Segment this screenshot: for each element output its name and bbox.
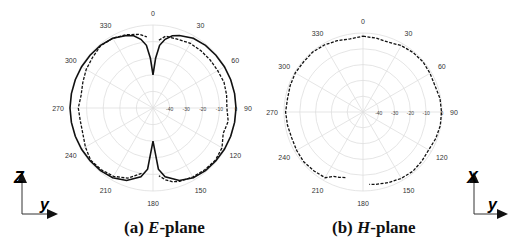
angle-tick-label: 180 [147,200,159,207]
radial-tick-label: -40 [375,110,382,116]
grid-spoke [324,44,364,112]
angle-tick-label: 90 [450,109,458,116]
angle-tick-label: 30 [405,30,413,37]
angle-tick-label: 270 [52,105,64,112]
angle-tick-label: 270 [266,109,278,116]
angle-tick-label: 90 [244,105,252,112]
caption-italic: E [148,218,159,237]
grid-spoke [363,44,403,112]
radial-tick-label: -20 [407,110,414,116]
polar-chart-0: 0306090120150180210240270300330-40-30-20… [52,10,252,207]
grid-spoke [81,108,153,150]
caption-italic: H [357,218,370,237]
angle-tick-label: 210 [312,187,324,194]
grid-spoke [363,112,403,180]
grid-spoke [81,67,153,109]
angle-tick-label: 210 [100,187,112,194]
grid-spoke [295,73,363,113]
angle-tick-label: 60 [438,63,446,70]
axis-label-z: Z [13,169,25,186]
axis-label-y: y [487,196,498,213]
angle-tick-label: 300 [65,57,77,64]
angle-tick-label: 60 [231,57,239,64]
caption-h-plane: (b) H-plane [332,218,416,238]
grid-spoke [295,112,363,152]
polar-plots: 0306090120150180210240270300330-40-30-20… [0,0,509,246]
angle-tick-label: 150 [403,187,415,194]
angle-tick-label: 150 [195,187,207,194]
angle-tick-label: 330 [100,22,112,29]
grid-spoke [153,108,225,150]
radial-tick-label: -20 [199,106,206,112]
radial-tick-label: -40 [166,106,173,112]
angle-tick-label: 120 [229,152,241,159]
angle-tick-label: 120 [436,154,448,161]
caption-suffix: -plane [159,218,204,237]
axes-icon-zy: Z y [8,164,68,224]
radial-tick-label: -30 [391,110,398,116]
angle-tick-label: 0 [361,18,365,25]
radial-tick-label: -10 [423,110,430,116]
axis-label-y: y [39,196,50,213]
grid-spoke [324,112,364,180]
caption-prefix: (a) [124,218,148,237]
angle-tick-label: 240 [65,152,77,159]
caption-prefix: (b) [332,218,357,237]
caption-e-plane: (a) E-plane [124,218,205,238]
axis-label-x: X [466,169,479,186]
grid-spoke [363,73,431,113]
radial-tick-label: -30 [183,106,190,112]
angle-tick-label: 300 [278,63,290,70]
angle-tick-label: 0 [151,10,155,17]
radial-tick-label: -10 [216,106,223,112]
angle-tick-label: 330 [312,30,324,37]
grid-spoke [153,67,225,109]
caption-suffix: -plane [370,218,415,237]
angle-tick-label: 30 [197,22,205,29]
polar-chart-1: 0306090120150180210240270300330-40-30-20… [266,18,458,207]
angle-tick-label: 240 [278,154,290,161]
axes-icon-xy: X y [462,164,509,224]
grid-spoke [363,112,431,152]
angle-tick-label: 180 [357,200,369,207]
